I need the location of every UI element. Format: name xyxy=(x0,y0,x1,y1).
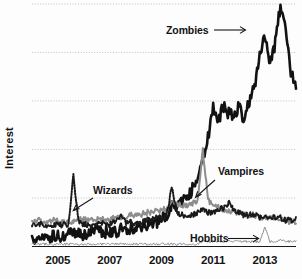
annotation-label-zombies: Zombies xyxy=(166,24,209,36)
x-tick-2013: 2013 xyxy=(253,254,278,266)
x-tick-2005: 2005 xyxy=(45,254,71,266)
chart-canvas: 20052007200920112013 Interest Zombies Va… xyxy=(0,0,302,279)
x-tick-2009: 2009 xyxy=(149,254,174,266)
annotation-label-wizards: Wizards xyxy=(93,184,133,196)
google-trends-chart: 20052007200920112013 Interest Zombies Va… xyxy=(0,0,302,279)
y-axis-label: Interest xyxy=(3,127,15,169)
annotation-label-vampires: Vampires xyxy=(218,165,264,177)
x-tick-2011: 2011 xyxy=(201,254,226,266)
annotation-label-hobbits: Hobbits xyxy=(190,232,229,244)
x-tick-2007: 2007 xyxy=(97,254,122,266)
